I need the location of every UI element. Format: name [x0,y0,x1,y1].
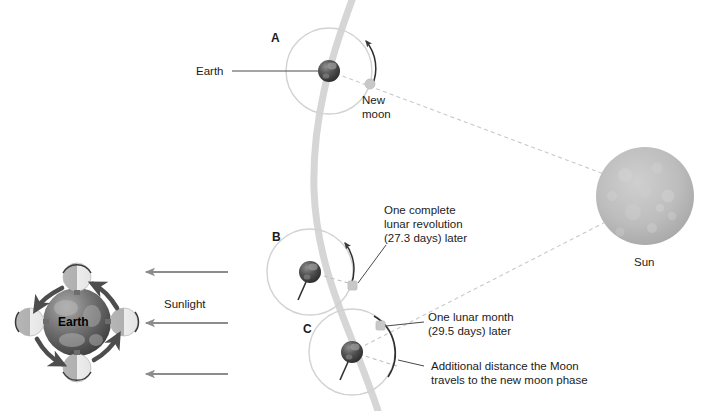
leader-line-revolution [358,245,386,283]
earth-a-continent-2 [323,73,330,78]
additional-distance-label-line2: travels to the new moon phase [431,373,588,387]
new-moon-label-line2: moon [362,107,391,121]
inset-moon-phase-diagram [15,263,228,382]
earth-axis-tick-b [298,282,306,300]
inset-moon-right [110,308,138,336]
earth-b-continent-2 [304,274,311,279]
earth-a-continent-1 [327,63,336,70]
lunar-revolution-label-line1: One complete [384,203,456,217]
position-label-b: B [272,230,281,244]
lunar-revolution-label-line2: lunar revolution [384,217,463,231]
inset-moon-left [16,308,44,336]
additional-distance-label-line1: Additional distance the Moon [431,359,579,373]
figure-canvas: A Earth New moon B One complete lunar re… [0,0,704,411]
inset-moon-tab-right [105,319,111,324]
earth-axis-tick-c [340,362,348,380]
sun-label: Sun [634,255,654,269]
diagram-graphics [0,0,704,411]
inset-moon-tab-left [43,319,49,324]
earth-c-continent-2 [346,354,353,359]
moon-marker-c [376,321,385,330]
earth-body-a [318,60,340,82]
earth-body-c [341,341,363,363]
earth-b-continent-1 [308,264,317,271]
earth-c-continent-1 [350,344,359,351]
position-label-a: A [271,31,280,45]
inset-earth-label: Earth [58,315,89,329]
lunar-month-label-line1: One lunar month [428,310,514,324]
position-label-c: C [303,322,312,336]
inset-moon-tab-top [74,290,80,295]
inset-moon-tab-bottom [74,350,80,355]
leader-line-additional-distance [398,360,424,366]
lunar-revolution-label-line3: (27.3 days) later [384,231,467,245]
lunar-month-label-line2: (29.5 days) later [428,324,511,338]
new-moon-marker-a [365,79,375,89]
new-moon-label-line1: New [362,93,385,107]
sunlight-label: Sunlight [164,297,206,311]
earth-body-b [299,261,321,283]
earth-label: Earth [196,64,224,78]
moon-marker-b [348,281,357,290]
